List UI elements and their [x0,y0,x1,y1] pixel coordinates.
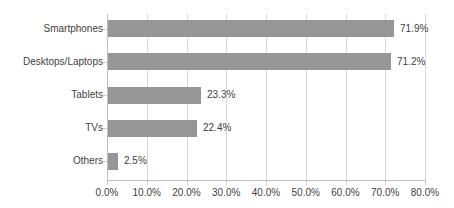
bar [108,87,201,104]
bar-value-label: 71.2% [397,56,425,68]
gridline [425,14,426,180]
x-axis-tick-label: 80.0% [395,187,454,199]
y-axis-tick [103,29,107,30]
x-axis-tick [107,181,108,185]
y-axis-tick [103,95,107,96]
x-axis-tick [346,181,347,185]
y-axis-tick [103,128,107,129]
bar-value-label: 23.3% [207,89,235,101]
x-axis-tick [187,181,188,185]
category-label: Others [0,155,103,167]
category-label: Tablets [0,89,103,101]
x-axis-tick [226,181,227,185]
bar [108,120,197,137]
bar [108,20,394,37]
x-axis-tick [385,181,386,185]
bar-value-label: 22.4% [203,122,231,134]
y-axis-tick [103,62,107,63]
category-label: Desktops/Laptops [0,56,103,68]
gridline [346,14,347,180]
y-axis-tick [103,161,107,162]
gridline [266,14,267,180]
x-axis-tick [147,181,148,185]
bar-chart: 0.0%10.0%20.0%30.0%40.0%50.0%60.0%70.0%8… [0,0,454,208]
x-axis-line [107,180,426,181]
x-axis-tick [425,181,426,185]
x-axis-tick [306,181,307,185]
bar [108,53,391,70]
gridline [306,14,307,180]
bar-value-label: 2.5% [124,155,147,167]
gridline [385,14,386,180]
category-label: Smartphones [0,23,103,35]
category-label: TVs [0,122,103,134]
bar-value-label: 71.9% [400,23,428,35]
x-axis-tick [266,181,267,185]
bar [108,153,118,170]
